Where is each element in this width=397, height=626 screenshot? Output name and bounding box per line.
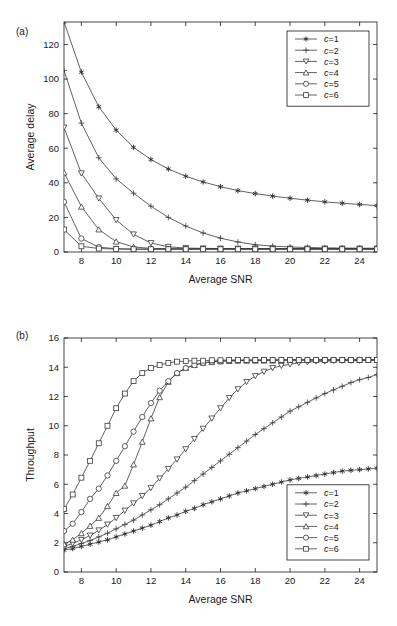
y-tick-label: 14 <box>48 362 59 373</box>
plus-marker <box>365 375 371 381</box>
square-marker <box>244 357 249 362</box>
plus-marker <box>165 215 171 221</box>
square-marker <box>114 406 119 411</box>
circle-marker <box>148 400 153 405</box>
triangle-down-marker <box>87 533 93 538</box>
circle-marker <box>105 473 110 478</box>
circle-marker <box>183 365 188 370</box>
square-marker <box>201 358 206 363</box>
asterisk-marker <box>270 481 275 487</box>
triangle-up-marker <box>105 503 111 508</box>
plus-marker <box>165 496 171 502</box>
square-marker <box>305 247 310 252</box>
y-tick-label: 40 <box>48 177 59 188</box>
legend-label: c=1 <box>324 488 339 498</box>
square-marker <box>175 359 180 364</box>
square-marker <box>331 357 336 362</box>
plus-marker <box>218 235 224 241</box>
x-tick-label: 20 <box>285 575 296 586</box>
plus-marker <box>357 377 363 383</box>
square-marker <box>304 93 309 98</box>
asterisk-marker <box>279 479 284 485</box>
square-marker <box>88 458 93 463</box>
plus-marker <box>278 414 284 420</box>
plus-marker <box>131 517 137 523</box>
square-marker <box>122 391 127 396</box>
x-tick-label: 14 <box>180 255 191 266</box>
x-tick-label: 10 <box>111 575 122 586</box>
asterisk-marker <box>201 179 206 185</box>
asterisk-marker <box>166 515 171 521</box>
square-marker <box>348 357 353 362</box>
square-marker <box>235 357 240 362</box>
triangle-down-marker <box>61 125 67 130</box>
triangle-up-marker <box>131 462 137 467</box>
circle-marker <box>174 370 179 375</box>
x-tick-label: 16 <box>215 255 226 266</box>
panel-a: (a) 81012141618202224020406080100120Aver… <box>0 0 397 310</box>
plus-marker <box>270 420 276 426</box>
panel-a-label: (a) <box>16 26 28 37</box>
plus-marker <box>183 223 189 229</box>
square-marker <box>253 247 258 252</box>
triangle-up-marker <box>157 394 163 399</box>
asterisk-marker <box>244 488 249 494</box>
legend: c=1c=2c=3c=4c=5c=6 <box>287 31 369 106</box>
x-tick-label: 16 <box>215 575 226 586</box>
x-tick-label: 24 <box>354 575 365 586</box>
circle-marker <box>303 535 308 540</box>
circle-marker <box>303 81 308 86</box>
legend-label: c=5 <box>324 79 339 89</box>
plus-marker <box>235 239 241 245</box>
triangle-up-marker <box>61 170 67 175</box>
circle-marker <box>70 521 75 526</box>
legend-label: c=5 <box>324 533 339 543</box>
triangle-up-marker <box>96 227 102 232</box>
triangle-down-marker <box>78 537 84 542</box>
y-tick-label: 100 <box>43 73 59 84</box>
y-tick-label: 120 <box>43 39 59 50</box>
legend-label: c=2 <box>324 499 339 509</box>
triangle-down-marker <box>131 232 137 237</box>
square-marker <box>270 357 275 362</box>
y-tick-label: 0 <box>54 246 59 257</box>
asterisk-marker <box>96 539 101 545</box>
square-marker <box>322 247 327 252</box>
square-marker <box>157 363 162 368</box>
square-marker <box>192 358 197 363</box>
chart-throughput: 810121416182022240246810121416Average SN… <box>0 310 397 626</box>
plus-marker <box>322 391 328 397</box>
y-tick-label: 80 <box>48 108 59 119</box>
plus-marker <box>305 399 311 405</box>
y-axis-title: Average delay <box>24 103 36 171</box>
asterisk-marker <box>175 512 180 518</box>
circle-marker <box>131 429 136 434</box>
plus-marker <box>261 426 267 432</box>
plus-marker <box>78 120 84 126</box>
square-marker <box>131 379 136 384</box>
legend-label: c=4 <box>324 68 339 78</box>
square-marker <box>218 247 223 252</box>
square-marker <box>305 357 310 362</box>
plus-marker <box>331 387 337 393</box>
square-marker <box>70 492 75 497</box>
x-tick-label: 14 <box>180 575 191 586</box>
square-marker <box>270 247 275 252</box>
square-marker <box>288 357 293 362</box>
x-tick-label: 20 <box>285 255 296 266</box>
square-marker <box>288 247 293 252</box>
y-tick-label: 12 <box>48 391 59 402</box>
square-marker <box>62 227 67 232</box>
asterisk-marker <box>236 490 241 496</box>
triangle-up-marker <box>96 515 102 520</box>
legend-label: c=3 <box>324 511 339 521</box>
plus-marker <box>148 203 154 209</box>
asterisk-marker <box>183 174 188 180</box>
circle-marker <box>96 486 101 491</box>
series-c=5 <box>61 199 379 252</box>
x-axis-title: Average SNR <box>188 593 252 605</box>
square-marker <box>96 441 101 446</box>
square-marker <box>304 546 309 551</box>
legend-label: c=3 <box>324 57 339 67</box>
square-marker <box>140 371 145 376</box>
